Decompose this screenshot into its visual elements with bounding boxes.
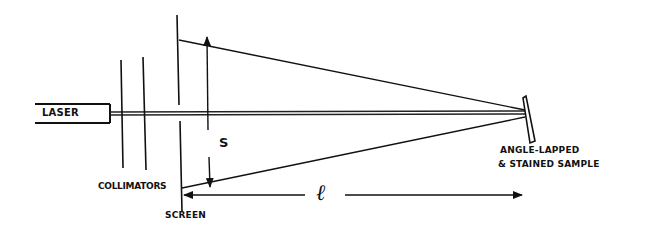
screen-line: [177, 15, 182, 212]
collimator-plates: [121, 57, 146, 170]
sample-wedge: [523, 96, 535, 143]
laser-label: LASER: [42, 107, 79, 118]
collimators-label: COLLIMATORS: [98, 181, 166, 191]
distance-l-label: ℓ: [316, 180, 325, 206]
sample-label-line2: & STAINED SAMPLE: [498, 159, 600, 169]
screen-label: SCREEN: [165, 210, 206, 220]
separation-s-label: S: [219, 135, 229, 150]
laser-beam: [110, 111, 525, 115]
sample-label-line1: ANGLE-LAPPED: [500, 145, 579, 155]
